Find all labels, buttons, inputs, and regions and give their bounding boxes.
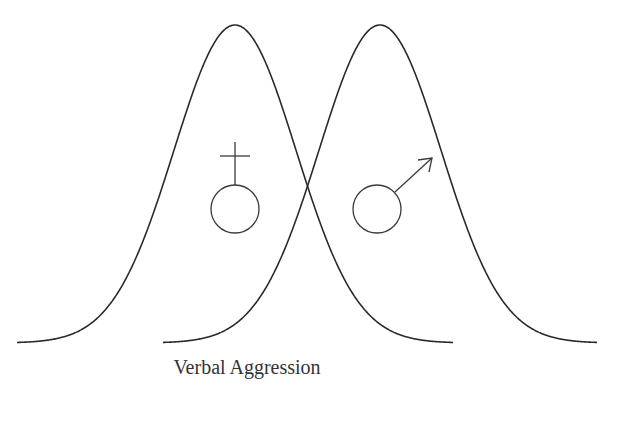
male-symbol-icon [353, 158, 432, 233]
male-distribution-curve [163, 25, 597, 342]
x-axis-label: Verbal Aggression [173, 356, 320, 379]
female-symbol-icon [211, 142, 259, 233]
distribution-diagram: Verbal Aggression [0, 0, 618, 433]
